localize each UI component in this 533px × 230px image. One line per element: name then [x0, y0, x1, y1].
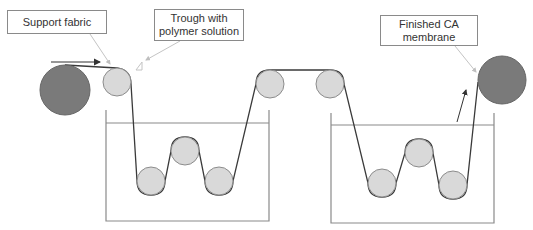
trough-2-roller-mid	[405, 139, 433, 167]
leader-trough	[146, 41, 180, 60]
label-support-fabric-text: Support fabric	[23, 16, 91, 29]
take-up-roll	[478, 56, 526, 104]
label-support-fabric: Support fabric	[7, 10, 107, 34]
leader-finished	[455, 46, 476, 72]
label-finished-text: Finished CA membrane	[399, 18, 459, 44]
feed-roll	[40, 65, 90, 115]
leader-support-fabric	[90, 34, 110, 64]
guide-roller-1	[103, 68, 131, 96]
guide-roller-2	[256, 70, 284, 98]
trough-2-roller-right	[439, 171, 467, 199]
rollers	[103, 68, 467, 199]
exit-direction-arrow	[457, 90, 466, 122]
label-trough: Trough with polymer solution	[154, 9, 244, 41]
label-finished-membrane: Finished CA membrane	[380, 15, 478, 46]
label-trough-text: Trough with polymer solution	[159, 12, 239, 38]
trough-2-roller-left	[368, 169, 396, 197]
trough-1	[106, 110, 269, 221]
trough-1-roller-right	[205, 167, 233, 195]
trough-1-roller-mid	[171, 137, 199, 165]
guide-roller-3	[316, 70, 344, 98]
trough-1-roller-left	[137, 167, 165, 195]
trough-indicator-icon	[136, 62, 142, 70]
